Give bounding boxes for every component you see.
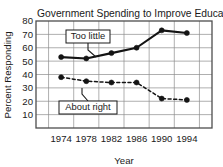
y-tick-label: 50 xyxy=(22,56,33,67)
y-tick-label: 70 xyxy=(22,29,33,40)
data-point-marker xyxy=(84,79,89,84)
y-tick-label: 30 xyxy=(22,82,33,93)
line-chart: Government Spending to Improve Education… xyxy=(0,0,223,167)
y-tick-label: 60 xyxy=(22,42,33,53)
data-point-marker xyxy=(84,56,89,61)
y-tick-label: 10 xyxy=(22,109,33,120)
data-point-marker xyxy=(159,28,164,33)
x-tick-label: 1978 xyxy=(76,133,97,144)
x-tick-label: 1974 xyxy=(50,133,72,144)
data-point-marker xyxy=(184,31,189,36)
data-point-marker xyxy=(134,45,139,50)
x-tick-label: 1990 xyxy=(151,133,172,144)
data-point-marker xyxy=(159,96,164,101)
x-tick-label: 1986 xyxy=(126,133,147,144)
chart-title: Government Spending to Improve Education xyxy=(37,8,223,19)
data-point-marker xyxy=(134,80,139,85)
data-point-marker xyxy=(184,97,189,102)
y-tick-label: 20 xyxy=(22,96,33,107)
annotation-label-too-little: Too little xyxy=(71,30,105,41)
data-point-marker xyxy=(59,75,64,80)
y-axis-label: Percent Responding xyxy=(2,32,13,119)
chart-figure: Government Spending to Improve Education… xyxy=(0,0,223,167)
x-tick-label: 1982 xyxy=(101,133,122,144)
y-tick-label: 80 xyxy=(22,15,33,26)
y-tick-label: 40 xyxy=(22,69,33,80)
y-axis-tick-labels: 1020304050607080 xyxy=(22,15,33,120)
data-point-marker xyxy=(59,55,64,60)
x-axis-tick-labels: 197419781982198619901994 xyxy=(50,133,198,144)
data-point-marker xyxy=(109,51,114,56)
data-point-marker xyxy=(109,80,114,85)
annotation-label-about-right: About right xyxy=(65,101,111,112)
x-axis-label: Year xyxy=(114,155,134,166)
x-tick-label: 1994 xyxy=(176,133,198,144)
